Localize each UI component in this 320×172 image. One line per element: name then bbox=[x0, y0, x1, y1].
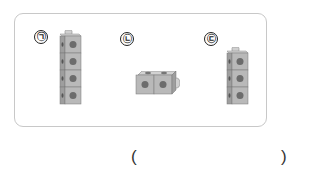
cube-stack-4-vertical[interactable] bbox=[57, 30, 83, 105]
option-label-3: ㉢ bbox=[204, 32, 218, 46]
option-label-2: ㉡ bbox=[120, 32, 134, 46]
answer-blank[interactable] bbox=[142, 148, 276, 168]
answer-close-paren: ) bbox=[281, 147, 287, 167]
cube-stack-3-vertical[interactable] bbox=[224, 47, 250, 105]
option-label-1: ㉠ bbox=[34, 30, 48, 44]
answer-open-paren: ( bbox=[131, 147, 137, 167]
cube-stack-2-horizontal[interactable] bbox=[134, 71, 180, 97]
